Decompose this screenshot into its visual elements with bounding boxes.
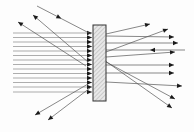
arrowhead-icon — [167, 103, 172, 108]
oblique-ray — [37, 6, 91, 34]
diagram-canvas — [0, 0, 194, 132]
reflected-ray — [18, 22, 86, 66]
arrowhead-icon — [87, 76, 92, 80]
arrowhead-icon — [87, 71, 92, 75]
arrowhead-icon — [18, 22, 23, 27]
incoming-oblique-ray — [37, 6, 91, 34]
arrowhead-icon — [169, 35, 174, 39]
arrowhead-icon — [177, 84, 182, 88]
arrowhead-icon — [87, 90, 92, 94]
reflected-ray — [33, 15, 88, 62]
arrowhead-icon — [87, 67, 92, 71]
transmitted-ray — [106, 29, 168, 52]
arrowhead-icon — [87, 49, 92, 53]
arrowhead-icon — [150, 48, 155, 52]
arrowhead-icon — [169, 63, 174, 67]
hatched-slab — [93, 25, 106, 101]
arrowhead-icon — [87, 44, 92, 48]
transmitted-ray — [106, 52, 175, 57]
transmitted-rays — [104, 23, 182, 108]
reflected-ray — [35, 84, 88, 115]
arrowhead-icon — [145, 23, 150, 27]
transmitted-ray — [106, 36, 174, 37]
reflected-rays — [18, 15, 90, 120]
arrowhead-icon — [87, 40, 92, 44]
arrowhead-icon — [48, 115, 53, 120]
arrowhead-icon — [169, 71, 174, 75]
arrowhead-icon — [87, 62, 92, 66]
transmitted-ray — [106, 24, 150, 34]
arrowhead-icon — [87, 35, 92, 39]
arrowhead-icon — [170, 50, 175, 54]
arrowhead-icon — [163, 29, 168, 33]
arrowhead-icon — [173, 41, 178, 45]
transmitted-ray — [104, 60, 172, 108]
ray-diagram — [0, 0, 194, 132]
arrowhead-icon — [87, 53, 92, 57]
arrowhead-icon — [35, 111, 40, 115]
transmitted-ray — [106, 62, 175, 99]
